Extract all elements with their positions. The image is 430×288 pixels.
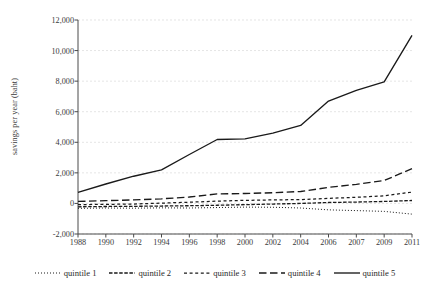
x-tick-label: 1994	[153, 238, 169, 247]
chart-legend: quintile 1quintile 2quintile 3quintile 4…	[0, 264, 430, 282]
legend-swatch-short-dash-icon	[184, 269, 210, 277]
x-tick-label: 1988	[70, 238, 86, 247]
x-tick-label: 2007	[348, 238, 364, 247]
x-tick-label: 2002	[265, 238, 281, 247]
legend-swatch-solid-icon	[334, 269, 360, 277]
x-tick-label: 2006	[320, 238, 336, 247]
plot-area: 1988199019921994199619982000200220042006…	[0, 0, 430, 288]
x-tick-label: 2000	[237, 238, 253, 247]
x-tick-label: 2004	[292, 238, 308, 247]
series-line-4	[78, 169, 412, 202]
legend-swatch-dense-dash-icon	[109, 269, 135, 277]
legend-item-5[interactable]: quintile 5	[334, 268, 396, 278]
legend-swatch-dotted-icon	[35, 269, 61, 277]
x-tick-label: 1998	[209, 238, 225, 247]
legend-item-4[interactable]: quintile 4	[259, 268, 321, 278]
legend-item-1[interactable]: quintile 1	[35, 268, 97, 278]
chart-figure: savings per year (baht) 12,00010,0008,00…	[0, 0, 430, 288]
series-line-1	[78, 207, 412, 214]
x-tick-label: 1992	[125, 238, 141, 247]
legend-label: quintile 5	[363, 268, 396, 278]
x-tick-label: 1996	[181, 238, 197, 247]
legend-label: quintile 1	[64, 268, 97, 278]
legend-item-2[interactable]: quintile 2	[109, 268, 171, 278]
legend-label: quintile 3	[213, 268, 246, 278]
series-line-5	[78, 35, 412, 192]
x-tick-label: 2009	[376, 238, 392, 247]
legend-swatch-long-dash-icon	[259, 269, 285, 277]
x-tick-label: 2011	[404, 238, 420, 247]
legend-label: quintile 4	[288, 268, 321, 278]
legend-item-3[interactable]: quintile 3	[184, 268, 246, 278]
x-tick-label: 1990	[98, 238, 114, 247]
legend-label: quintile 2	[138, 268, 171, 278]
series-line-2	[78, 201, 412, 207]
